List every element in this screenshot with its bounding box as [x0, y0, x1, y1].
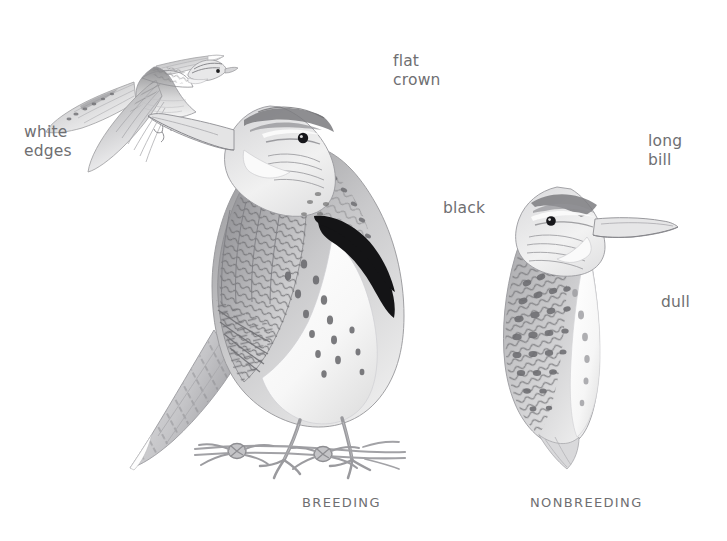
nonbreeding-eye: [546, 216, 556, 226]
annotation-long-bill: long bill: [648, 132, 682, 170]
caption-breeding: BREEDING: [302, 495, 381, 510]
annotation-dull: dull: [661, 293, 690, 312]
illustration-plate: white edges flat crown black long bill d…: [0, 0, 727, 541]
annotation-white-edges: white edges: [24, 123, 72, 161]
nonbreeding-meadowlark-figure: [483, 165, 678, 480]
barbed-wire-perch-figure: [195, 425, 405, 475]
caption-nonbreeding: NONBREEDING: [530, 495, 643, 510]
annotation-flat-crown: flat crown: [393, 52, 441, 90]
annotation-black: black: [443, 199, 485, 218]
nonbreeding-bill: [593, 218, 678, 238]
breeding-eye: [298, 133, 308, 143]
